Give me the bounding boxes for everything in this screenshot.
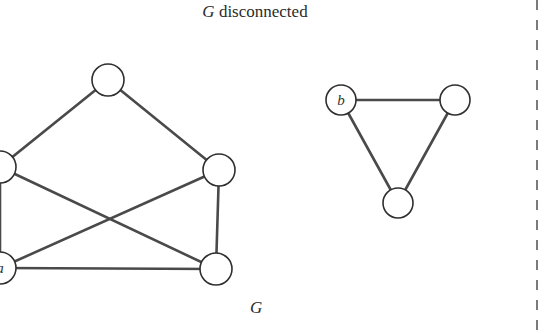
graph-canvas: ab <box>0 0 546 333</box>
edge-right-a <box>0 170 219 268</box>
node-bottom-right <box>200 253 232 285</box>
node-label: a <box>0 260 4 276</box>
node-circle <box>203 154 235 186</box>
edge-b-tri-bottom <box>341 100 398 203</box>
node-right <box>203 154 235 186</box>
node-tri-right <box>440 85 470 115</box>
node-label: b <box>337 92 345 108</box>
node-circle <box>92 64 124 96</box>
nodes-layer: ab <box>0 64 470 285</box>
node-b: b <box>326 85 356 115</box>
node-circle <box>440 85 470 115</box>
edge-tri-right-tri-bottom <box>398 100 455 203</box>
node-a: a <box>0 252 16 284</box>
edge-top-right <box>108 80 219 170</box>
node-tri-bottom <box>383 188 413 218</box>
edge-top-left <box>0 80 108 167</box>
node-circle <box>383 188 413 218</box>
node-top <box>92 64 124 96</box>
graph-caption: G <box>250 298 262 318</box>
edge-a-bottom-right <box>0 268 216 269</box>
node-circle <box>200 253 232 285</box>
